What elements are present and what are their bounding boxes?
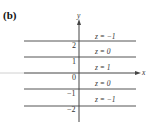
level-label: z = −1 [95,96,116,104]
y-tick: 2 [72,42,76,50]
y-tick: −1 [67,90,76,98]
level-label: z = 0 [95,48,110,56]
x-axis-arrow-icon [135,71,141,75]
y-axis-label: y [77,12,80,20]
y-tick: −2 [67,106,76,114]
panel-label: (b) [3,10,16,21]
y-tick: 0 [72,74,76,82]
level-label: z = 1 [95,64,110,72]
y-tick: 1 [72,58,76,66]
x-axis-label: x [142,69,145,77]
level-label: z = 0 [95,80,110,88]
level-label: z = −1 [95,33,116,41]
